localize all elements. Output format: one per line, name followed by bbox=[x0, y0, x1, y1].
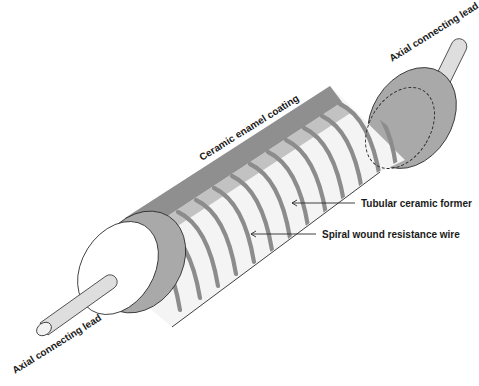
resistor-diagram: Ceramic enamel coating Axial connecting … bbox=[0, 0, 479, 386]
label-former: Tubular ceramic former bbox=[361, 198, 472, 209]
label-lead-right: Axial connecting lead bbox=[387, 0, 479, 64]
label-wire: Spiral wound resistance wire bbox=[322, 229, 460, 240]
